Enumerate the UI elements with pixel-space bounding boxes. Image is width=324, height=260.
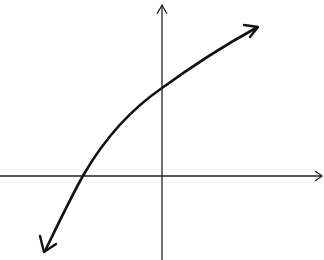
graph-canvas: Increasing concave-down curve (logarithm… <box>0 0 324 260</box>
function-graph <box>0 0 324 260</box>
function-curve <box>46 28 256 249</box>
